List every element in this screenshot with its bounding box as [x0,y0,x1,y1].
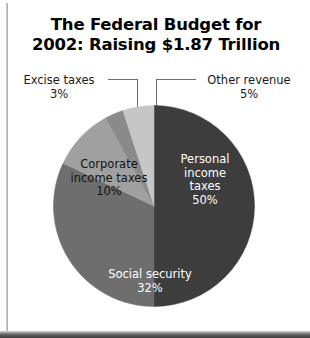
slice-label-personal-income-taxes: Personal income taxes 50% [166,153,244,207]
callout-excise-name: Excise taxes [12,73,106,87]
chart-title-line-2: 2002: Raising $1.87 Trillion [14,35,298,55]
slice-label-social-line-1: Social security [92,268,208,282]
scan-bottom-edge [0,331,310,338]
callout-other-percent: 5% [198,87,300,101]
leader-line-other-horizontal [156,79,196,80]
slice-label-personal-line-2: income [166,167,244,181]
scan-page-margin [0,0,5,338]
slice-label-corporate-income-taxes: Corporate income taxes 10% [57,158,161,199]
slice-label-personal-line-3: taxes [166,180,244,194]
chart-title: The Federal Budget for 2002: Raising $1.… [14,15,298,55]
scan-top-margin [0,0,310,3]
chart-title-line-1: The Federal Budget for [14,15,298,35]
slice-label-social-security: Social security 32% [92,268,208,295]
callout-other-name: Other revenue [198,73,300,87]
slice-label-corporate-line-1: Corporate [57,158,161,172]
callout-label-other-revenue: Other revenue 5% [198,73,300,101]
slice-label-corporate-percent: 10% [57,185,161,199]
scan-page-edge-line [6,0,8,338]
slice-label-personal-percent: 50% [166,194,244,208]
figure-canvas: The Federal Budget for 2002: Raising $1.… [0,0,310,338]
slice-label-social-percent: 32% [92,282,208,296]
callout-excise-percent: 3% [12,87,106,101]
leader-line-excise-horizontal [108,79,138,80]
slice-label-corporate-line-2: income taxes [57,172,161,186]
slice-label-personal-line-1: Personal [166,153,244,167]
callout-label-excise-taxes: Excise taxes 3% [12,73,106,101]
